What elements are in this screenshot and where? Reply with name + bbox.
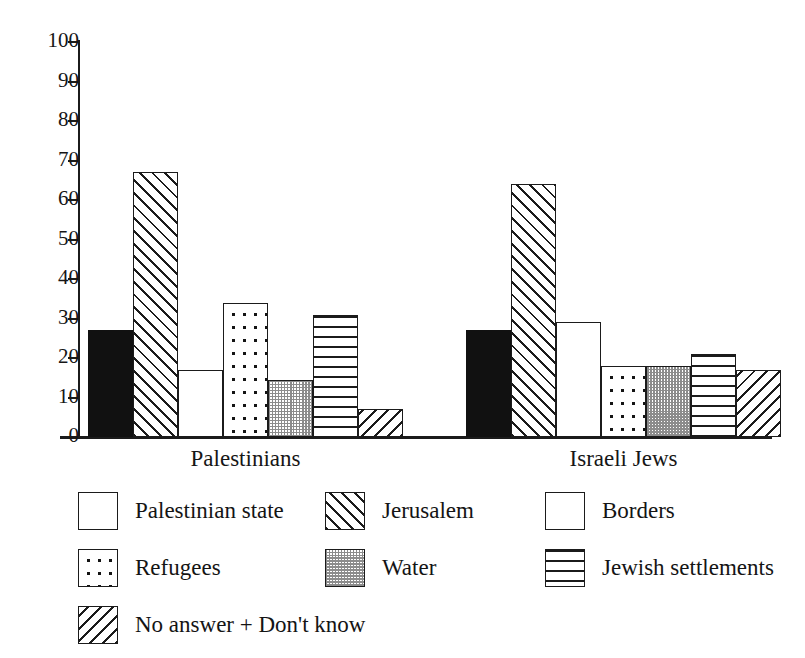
legend-label: Refugees xyxy=(135,555,221,581)
bar-palestinian-state xyxy=(466,330,511,437)
legend-swatch-icon xyxy=(325,549,365,587)
legend-item-water[interactable]: Water xyxy=(325,549,436,587)
bar-refugees xyxy=(223,303,268,437)
legend-item-no-answer-don-t-know[interactable]: No answer + Don't know xyxy=(78,606,365,644)
legend-label: Borders xyxy=(602,498,675,524)
legend-label: No answer + Don't know xyxy=(135,612,365,638)
bar-group-israeli-jews xyxy=(466,0,781,437)
bar-borders xyxy=(178,370,223,437)
bar-jerusalem xyxy=(511,184,556,437)
category-label-palestinians: Palestinians xyxy=(88,446,403,472)
bar-water xyxy=(268,380,313,437)
bar-palestinian-state xyxy=(88,330,133,437)
legend-swatch-icon xyxy=(325,492,365,530)
legend-item-jerusalem[interactable]: Jerusalem xyxy=(325,492,474,530)
bars-layer xyxy=(0,0,805,437)
legend-swatch-icon xyxy=(78,549,118,587)
legend-swatch-icon xyxy=(545,492,585,530)
bar-no-answer-don-t-know xyxy=(736,370,781,437)
bar-jewish-settlements xyxy=(691,354,736,437)
category-label-israeli-jews: Israeli Jews xyxy=(466,446,781,472)
bar-jewish-settlements xyxy=(313,315,358,437)
bar-chart: 1009080706050403020100 PalestiniansIsrae… xyxy=(0,0,805,658)
legend-item-borders[interactable]: Borders xyxy=(545,492,675,530)
legend-swatch-icon xyxy=(78,606,118,644)
bar-water xyxy=(646,366,691,437)
bar-borders xyxy=(556,322,601,437)
bar-refugees xyxy=(601,366,646,437)
plot-area: 1009080706050403020100 PalestiniansIsrae… xyxy=(0,0,805,470)
legend-label: Jerusalem xyxy=(382,498,474,524)
legend-label: Water xyxy=(382,555,436,581)
legend: Palestinian stateJerusalemBordersRefugee… xyxy=(0,492,805,658)
legend-swatch-icon xyxy=(78,492,118,530)
legend-item-refugees[interactable]: Refugees xyxy=(78,549,221,587)
bar-jerusalem xyxy=(133,172,178,437)
legend-swatch-icon xyxy=(545,549,585,587)
legend-label: Palestinian state xyxy=(135,498,284,524)
bar-no-answer-don-t-know xyxy=(358,409,403,437)
legend-label: Jewish settlements xyxy=(602,555,774,581)
legend-item-palestinian-state[interactable]: Palestinian state xyxy=(78,492,284,530)
legend-item-jewish-settlements[interactable]: Jewish settlements xyxy=(545,549,774,587)
bar-group-palestinians xyxy=(88,0,403,437)
